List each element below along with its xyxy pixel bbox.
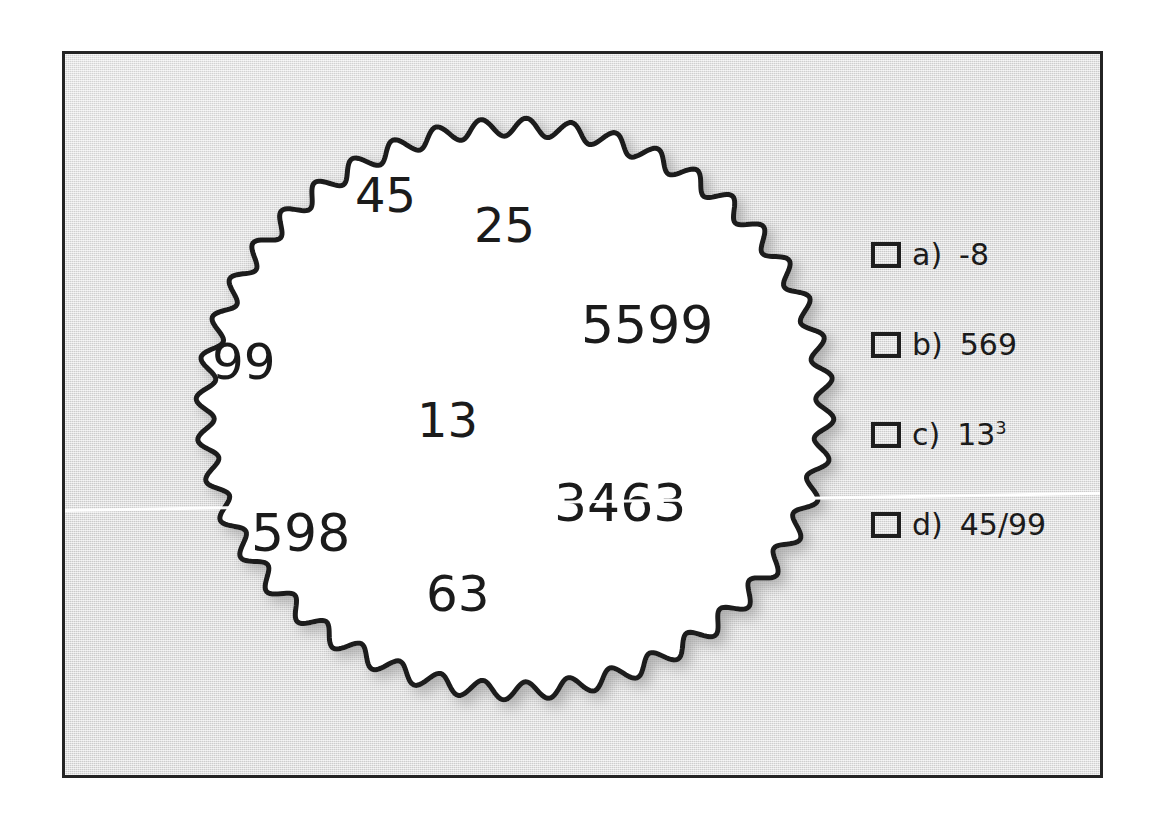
answer-value-d: 45/99 <box>960 510 1046 540</box>
answer-letter-b: b) <box>912 330 943 360</box>
answer-option-a[interactable]: a) -8 <box>871 232 1096 278</box>
checkbox-c-icon[interactable] <box>871 422 901 448</box>
circle-number-5599: 5599 <box>581 299 713 351</box>
answer-letter-c: c) <box>912 420 940 450</box>
circle-number-25: 25 <box>474 201 535 249</box>
answer-options-list: a) -8 b) 569 c) 133 d) 45/99 <box>871 232 1096 548</box>
circle-number-13: 13 <box>417 396 478 444</box>
answer-option-b[interactable]: b) 569 <box>871 322 1096 368</box>
circle-number-598: 598 <box>251 507 350 559</box>
answer-letter-d: d) <box>912 510 943 540</box>
answer-value-c: 133 <box>957 420 1006 450</box>
circle-number-45: 45 <box>355 171 416 219</box>
answer-value-c-base: 13 <box>957 417 995 452</box>
answer-value-c-exponent: 3 <box>995 418 1006 438</box>
circle-number-99: 99 <box>212 337 276 387</box>
answer-value-a: -8 <box>959 240 989 270</box>
answer-option-d[interactable]: d) 45/99 <box>871 502 1096 548</box>
worksheet-page-frame: 452555999913346359863 a) -8 b) 569 c) 13… <box>62 51 1103 778</box>
answer-letter-a: a) <box>912 240 942 270</box>
scanned-worksheet-image: 452555999913346359863 a) -8 b) 569 c) 13… <box>0 0 1166 825</box>
circle-number-63: 63 <box>426 569 490 619</box>
checkbox-b-icon[interactable] <box>871 332 901 358</box>
checkbox-a-icon[interactable] <box>871 242 901 268</box>
scalloped-circle: 452555999913346359863 <box>185 109 845 709</box>
circle-number-3463: 3463 <box>554 477 686 529</box>
checkbox-d-icon[interactable] <box>871 512 901 538</box>
answer-value-b: 569 <box>960 330 1017 360</box>
answer-option-c[interactable]: c) 133 <box>871 412 1096 458</box>
